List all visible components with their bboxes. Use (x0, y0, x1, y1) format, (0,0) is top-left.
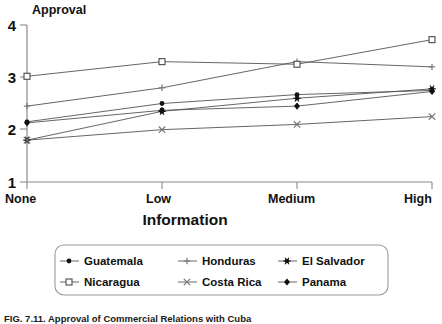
data-point-0-1 (160, 101, 165, 106)
data-point-3-0 (24, 73, 30, 79)
legend-marker-asterisk-icon (283, 258, 291, 265)
legend-marker-square-open-icon (66, 279, 72, 285)
legend-item-panama[interactable]: Panama (278, 276, 347, 288)
y-tick-label-4: 4 (8, 17, 17, 34)
legend-item-nicaragua[interactable]: Nicaragua (60, 276, 140, 288)
legend-item-costa-rica[interactable]: Costa Rica (178, 276, 262, 288)
data-point-1-0 (24, 103, 30, 109)
series-nicaragua (24, 37, 435, 80)
y-tick-label-1: 1 (8, 174, 16, 191)
x-category-label-medium: Medium (268, 192, 315, 206)
legend-marker-diamond-icon (284, 278, 290, 285)
x-category-label-low: Low (146, 192, 171, 206)
legend-label: Panama (302, 276, 347, 288)
series-guatemala (25, 88, 435, 124)
legend-label: Costa Rica (202, 276, 262, 288)
y-tick-label-2: 2 (8, 121, 16, 138)
data-point-5-0 (24, 119, 30, 126)
data-point-5-1 (159, 107, 165, 114)
figure-root: Approval 4 3 2 1 None Low Medium High In (0, 0, 442, 324)
legend-marker-plus-icon (184, 258, 190, 264)
data-point-3-1 (159, 59, 165, 65)
legend-item-el-salvador[interactable]: El Salvador (278, 255, 365, 267)
series-honduras (24, 58, 435, 109)
y-tick-label-3: 3 (8, 69, 16, 86)
series-el-salvador (23, 86, 436, 144)
x-axis-title: Information (142, 211, 227, 228)
x-category-label-high: High (404, 192, 432, 206)
legend-label: Nicaragua (84, 276, 140, 288)
series-costa-rica (24, 113, 435, 143)
data-point-3-3 (429, 37, 435, 43)
x-axis-ticks (27, 182, 432, 189)
legend-label: Honduras (202, 255, 256, 267)
figure-caption: FIG. 7.11. Approval of Commercial Relati… (4, 313, 252, 324)
legend-layer: GuatemalaHondurasEl SalvadorNicaraguaCos… (60, 255, 365, 288)
approval-line-chart: Approval 4 3 2 1 None Low Medium High In (0, 0, 442, 324)
series-layer (23, 37, 436, 144)
series-panama (24, 88, 435, 127)
x-category-label-none: None (5, 192, 36, 206)
legend-label: El Salvador (302, 255, 365, 267)
data-point-5-2 (294, 103, 300, 110)
data-point-3-2 (294, 61, 300, 67)
legend-label: Guatemala (84, 255, 143, 267)
legend-item-honduras[interactable]: Honduras (178, 255, 256, 267)
legend-marker-dot-icon (67, 259, 72, 264)
legend-item-guatemala[interactable]: Guatemala (60, 255, 143, 267)
y-axis-title: Approval (32, 3, 86, 17)
data-point-1-1 (159, 85, 165, 91)
data-point-1-3 (429, 64, 435, 70)
y-axis-ticks: 4 3 2 1 (8, 17, 27, 191)
